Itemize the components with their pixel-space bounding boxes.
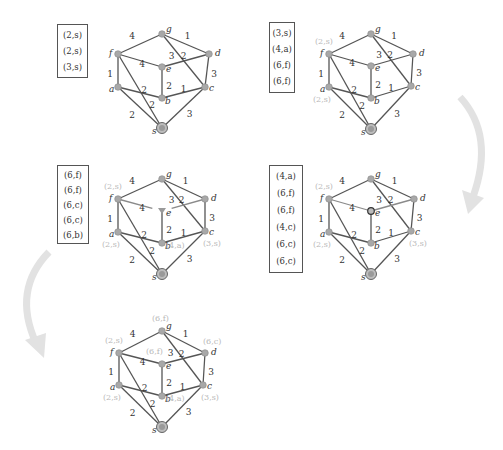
node-label-e: e <box>375 208 380 218</box>
edge-weight-e-d: 2 <box>181 51 187 61</box>
edge-weight-e-d: 2 <box>388 195 394 205</box>
source-node-inner <box>159 424 165 430</box>
edge-weight-f-e: 4 <box>140 357 146 367</box>
distance-label-a: (2,s) <box>313 95 331 104</box>
queue-entry: (3,s) <box>63 60 82 75</box>
edge-a-s <box>119 385 162 427</box>
edge-weight-a-s: 2 <box>339 255 345 265</box>
node-c <box>408 83 415 90</box>
node-label-b: b <box>165 96 171 106</box>
arrow-step2-to-step4 <box>460 97 484 214</box>
node-e <box>159 361 166 368</box>
node-label-f: f <box>319 193 325 203</box>
node-label-f: f <box>108 48 114 58</box>
node-f <box>115 51 122 58</box>
queue-entry: (6,c) <box>276 237 296 252</box>
node-label-f: f <box>108 193 114 203</box>
graph-panel-step-5: 4134212321223gfdeacbs(6,f)(2,s)(6,f)(6,c… <box>103 314 221 435</box>
node-c <box>202 228 209 235</box>
source-node-inner <box>368 126 374 132</box>
node-label-e: e <box>166 361 171 371</box>
node-label-f: f <box>109 347 115 357</box>
edge-weight-f-a: 1 <box>107 69 113 79</box>
edge-f-g <box>118 179 162 199</box>
node-label-f: f <box>319 48 325 58</box>
edge-d-c <box>203 353 205 385</box>
edge-weight-a-s: 2 <box>129 110 135 120</box>
edge-weight-g-d: 1 <box>185 31 191 41</box>
edge-weight-f-e: 4 <box>349 203 355 213</box>
queue-entry: (6,f) <box>277 186 295 201</box>
node-d <box>411 196 418 203</box>
edge-weight-b-c: 1 <box>388 228 394 238</box>
edge-weight-d-c: 3 <box>417 213 423 223</box>
edge-weight-f-a: 1 <box>318 69 324 79</box>
queue-entry: (6,f) <box>273 58 291 73</box>
priority-queue-step-2: (3,s)(4,a)(6,f)(6,f) <box>269 22 295 93</box>
edge-weight-b-c: 1 <box>181 84 187 94</box>
node-f <box>326 51 333 58</box>
edge-weight-a-b: 2 <box>141 230 147 240</box>
queue-entry: (6,c) <box>276 254 296 269</box>
edge-weight-d-c: 3 <box>208 367 214 377</box>
node-label-d: d <box>215 48 221 58</box>
node-label-c: c <box>209 83 214 93</box>
edge-weight-f-s: 2 <box>359 101 365 111</box>
source-node-inner <box>159 271 165 277</box>
edge-weight-f-s: 2 <box>150 399 156 409</box>
node-label-a: a <box>109 229 114 239</box>
node-label-c: c <box>207 381 212 391</box>
distance-label-c: (3,s) <box>409 239 427 248</box>
node-label-c: c <box>209 227 214 237</box>
edge-d-c <box>411 54 413 86</box>
edge-weight-g-d: 1 <box>392 176 398 186</box>
node-label-d: d <box>419 48 425 58</box>
node-label-c: c <box>415 82 420 92</box>
edge-f-g <box>118 34 162 54</box>
node-g <box>159 31 166 38</box>
edge-weight-e-b: 2 <box>375 225 381 235</box>
edge-weight-c-s: 3 <box>186 407 192 417</box>
edge-weight-g-d: 1 <box>183 176 189 186</box>
edge-weight-a-s: 2 <box>129 255 135 265</box>
node-g <box>159 176 166 183</box>
edge-weight-e-b: 2 <box>166 81 172 91</box>
queue-entry: (6,c) <box>63 198 83 213</box>
source-node-inner <box>368 271 374 277</box>
distance-label-c: (3,s) <box>201 393 219 402</box>
edge-weight-f-e: 4 <box>139 203 145 213</box>
edge-weight-f-a: 1 <box>318 214 324 224</box>
edge-e-d <box>172 199 205 208</box>
distance-label-b: (4,a) <box>166 394 185 403</box>
edge-weight-c-s: 3 <box>187 254 193 264</box>
edge-weight-e-b: 2 <box>166 378 172 388</box>
queue-entry: (6,f) <box>277 203 295 218</box>
graph-panel-step-2: 4134212321223gfdeacbs(2,s)(2,s) <box>313 24 425 137</box>
priority-queue-step-1: (2,s)(2,s)(3,s) <box>57 24 88 78</box>
edge-weight-b-c: 1 <box>181 228 187 238</box>
edge-weight-g-c: 3 <box>376 50 382 60</box>
edge-weight-a-s: 2 <box>339 110 345 120</box>
edge-weight-e-d: 2 <box>387 50 393 60</box>
distance-label-e: (6,f) <box>146 347 163 356</box>
edge-weight-g-c: 3 <box>168 348 174 358</box>
queue-entry: (4,c) <box>276 220 296 235</box>
edge-weight-d-c: 3 <box>209 213 215 223</box>
edge-weight-f-g: 4 <box>339 31 345 41</box>
node-a <box>326 229 333 236</box>
graph-panel-step-1: 4134212321223gfdeacbs <box>107 24 221 136</box>
queue-entry: (6,b) <box>63 228 83 243</box>
node-label-g: g <box>375 24 381 34</box>
edge-weight-e-b: 2 <box>166 225 172 235</box>
node-f <box>115 196 122 203</box>
priority-queue-step-4: (4,a)(6,f)(6,f)(4,c)(6,c)(6,c) <box>269 165 303 273</box>
edge-f-g <box>329 179 371 199</box>
node-d <box>202 350 209 357</box>
graph-panel-step-4: 4134212321223gfdeacbs(2,s)(2,s)(3,s) <box>313 169 427 282</box>
node-label-g: g <box>375 169 381 179</box>
priority-queue-step-3: (6,f)(6,f)(6,c)(6,c)(6,b) <box>57 165 89 244</box>
queue-entry: (6,c) <box>63 213 83 228</box>
edge-weight-f-s: 2 <box>149 246 155 256</box>
edge-weight-b-c: 1 <box>388 83 394 93</box>
node-f <box>326 196 333 203</box>
